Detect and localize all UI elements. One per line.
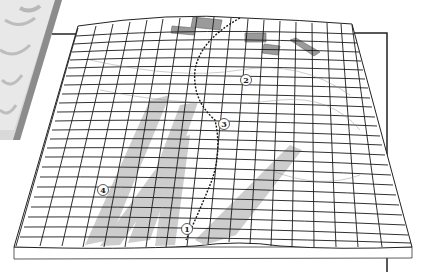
marker-4-label: 4 [100, 185, 106, 195]
block-top-surface [14, 16, 412, 248]
marker-4: 4 [98, 185, 109, 196]
marker-2-label: 2 [243, 75, 249, 85]
block-diagram: 1 2 3 4 [0, 0, 422, 272]
marker-3-label: 3 [221, 119, 227, 129]
block-front-face [14, 247, 412, 259]
marker-1-label: 1 [184, 224, 190, 234]
marker-3: 3 [219, 119, 230, 130]
marker-2: 2 [241, 75, 252, 86]
marker-1: 1 [182, 224, 193, 235]
